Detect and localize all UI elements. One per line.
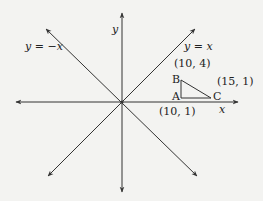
- vertex-c-coords: (15, 1): [217, 76, 254, 87]
- y-axis-label: y: [112, 24, 118, 35]
- origin-point: [121, 101, 124, 104]
- triangle-abc: [181, 80, 211, 98]
- line-label-y-equals-x: y = x: [184, 41, 213, 52]
- line-label-y-equals-neg-x: y = −x: [25, 41, 63, 52]
- coordinate-plane: [0, 0, 263, 201]
- vertex-c-label: C: [213, 91, 221, 102]
- vertex-a-coords: (10, 1): [159, 106, 196, 117]
- x-axis-label: x: [219, 104, 225, 115]
- vertex-b-coords: (10, 4): [174, 58, 211, 69]
- vertex-a-label: A: [172, 91, 180, 102]
- vertex-b-label: B: [172, 74, 180, 85]
